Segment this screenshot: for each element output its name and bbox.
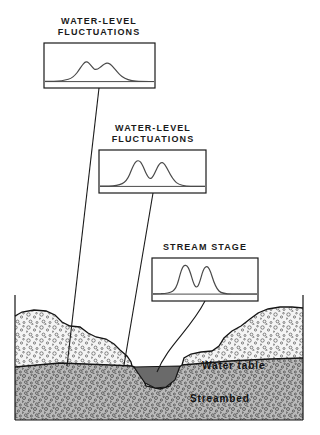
cross-section-illustration: [0, 0, 320, 435]
aquifer-bank-left: [15, 310, 132, 367]
aquifer-bank-right: [182, 307, 303, 365]
figure-root: WATER-LEVEL FLUCTUATIONS WATER-LEVEL FLU…: [0, 0, 320, 435]
water-table-label: Water table: [202, 360, 265, 371]
cross-section-group: [15, 295, 303, 420]
streambed-label: Streambed: [190, 393, 250, 404]
panel-title-stream-stage: STREAM STAGE: [140, 242, 270, 253]
panel-boxes: [44, 43, 258, 301]
panel-title-water-level-middle: WATER-LEVEL FLUCTUATIONS: [86, 123, 220, 145]
panel-water-level-middle[interactable]: [99, 150, 206, 193]
leader-line-well-near: [124, 193, 153, 365]
panel-title-water-level-upper: WATER-LEVEL FLUCTUATIONS: [30, 16, 168, 38]
panel-water-level-upper[interactable]: [44, 43, 155, 88]
panel-stream-stage[interactable]: [152, 258, 258, 301]
